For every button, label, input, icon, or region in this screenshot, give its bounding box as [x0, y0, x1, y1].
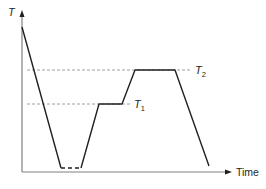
- x-axis-label: Time: [236, 166, 259, 178]
- t2-label: T2: [195, 64, 206, 79]
- y-axis-arrow-icon: [20, 10, 25, 17]
- x-axis-arrow-icon: [225, 170, 232, 175]
- cooling-segment: [22, 27, 61, 168]
- temperature-time-diagram: T Time T1 T2: [0, 0, 266, 189]
- t1-label: T1: [134, 98, 145, 113]
- y-axis-label: T: [8, 6, 16, 18]
- heating-profile: [81, 70, 209, 168]
